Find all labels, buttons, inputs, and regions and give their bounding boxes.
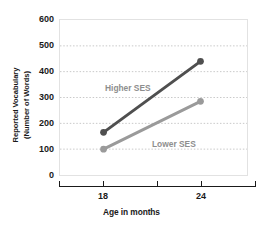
y-tick-label-300: 300 [22, 93, 54, 102]
higher-ses-point-18 [100, 129, 107, 136]
plot-svg [60, 20, 247, 175]
lower-ses-point-24 [197, 98, 204, 105]
x-tick-mark-end [255, 181, 256, 187]
x-tick-label-18: 18 [88, 191, 118, 201]
y-axis-tick-labels: 600 500 400 300 200 100 0 [22, 0, 54, 230]
lower-ses-point-18 [100, 146, 107, 153]
y-tick-label-200: 200 [22, 119, 54, 128]
series-label-lower-ses: Lower SES [152, 139, 196, 149]
x-tick-mark-mid [157, 181, 158, 187]
y-tick-label-600: 600 [22, 15, 54, 24]
higher-ses-point-24 [197, 58, 204, 65]
vocabulary-growth-chart: Reported Vocabulary (Number of Words) 60… [0, 0, 263, 230]
y-axis-title-line-1: Reported Vocabulary [11, 25, 22, 185]
x-tick-mark-18 [103, 181, 104, 187]
x-axis-title: Age in months [0, 207, 263, 217]
series-label-higher-ses: Higher SES [105, 83, 151, 93]
y-tick-label-400: 400 [22, 67, 54, 76]
x-tick-mark-24 [201, 181, 202, 187]
plot-area: Higher SES Lower SES [59, 19, 248, 176]
y-tick-label-0: 0 [22, 171, 54, 180]
x-tick-mark-start [59, 181, 60, 187]
x-tick-label-24: 24 [186, 191, 216, 201]
y-tick-label-500: 500 [22, 41, 54, 50]
y-tick-label-100: 100 [22, 145, 54, 154]
